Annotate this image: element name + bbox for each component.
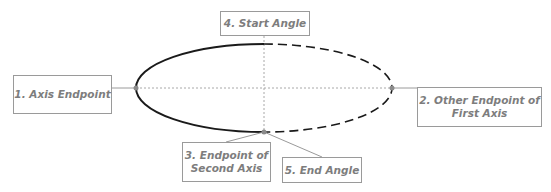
label-second-axis-endpoint: 3. Endpoint of Second Axis (182, 142, 271, 182)
label-axis-endpoint: 1. Axis Endpoint (13, 75, 112, 114)
point-axis-endpoint (134, 86, 139, 91)
label-other-endpoint-line1: 2. Other Endpoint of (419, 94, 540, 107)
point-second-axis (262, 130, 267, 135)
label-start-angle-text: 4. Start Angle (224, 17, 306, 30)
connector-second-axis (226, 132, 264, 142)
label-axis-endpoint-text: 1. Axis Endpoint (14, 88, 110, 101)
label-other-endpoint: 2. Other Endpoint of First Axis (417, 87, 542, 127)
label-other-endpoint-line2: First Axis (452, 107, 508, 120)
label-start-angle: 4. Start Angle (220, 11, 310, 36)
label-end-angle: 5. End Angle (282, 157, 362, 183)
label-second-axis-line1: 3. Endpoint of (185, 149, 268, 162)
label-second-axis-line2: Second Axis (191, 162, 263, 175)
connector-end-angle (264, 132, 322, 157)
point-other-endpoint (390, 86, 395, 91)
label-end-angle-text: 5. End Angle (285, 164, 360, 177)
